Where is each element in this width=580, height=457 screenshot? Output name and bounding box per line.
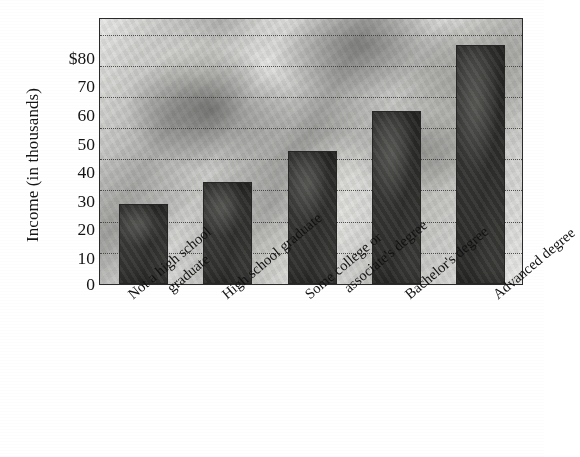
y-axis-title: Income (in thousands) [23, 40, 43, 290]
y-tick-10: 10 [49, 250, 95, 268]
gridline-80 [100, 35, 522, 36]
y-tick-20: 20 [49, 221, 95, 239]
y-tick-40: 40 [49, 164, 95, 182]
x-axis-tick-labels: Not a high schoolgraduateHigh school gra… [0, 283, 544, 457]
y-tick-50: 50 [49, 136, 95, 154]
y-tick-60: 60 [49, 107, 95, 125]
y-tick-30: 30 [49, 193, 95, 211]
y-tick-70: 70 [49, 78, 95, 96]
y-tick-80: $80 [49, 50, 95, 68]
